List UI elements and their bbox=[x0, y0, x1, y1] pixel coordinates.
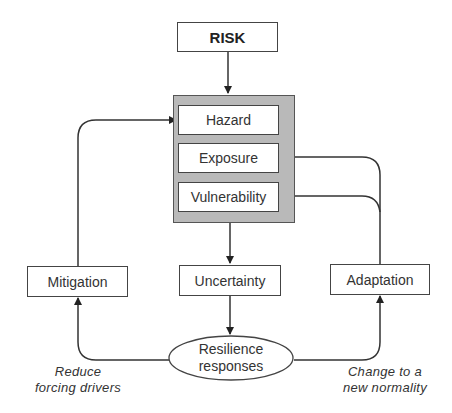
vulnerability-label: Vulnerability bbox=[191, 189, 267, 205]
adaptation-node: Adaptation bbox=[330, 264, 430, 295]
risk-diagram: RISK Hazard Exposure Vulnerability Mitig… bbox=[0, 0, 452, 413]
risk-label: RISK bbox=[210, 29, 246, 46]
exposure-label: Exposure bbox=[199, 150, 258, 166]
note-right-line2: new normality bbox=[335, 380, 435, 396]
adaptation-label: Adaptation bbox=[347, 272, 414, 288]
note-reduce-forcing-drivers: Reduce forcing drivers bbox=[28, 364, 128, 396]
hazard-node: Hazard bbox=[178, 105, 279, 135]
note-right-line1: Change to a bbox=[335, 364, 435, 380]
note-change-to-new-normality: Change to a new normality bbox=[335, 364, 435, 396]
hazard-label: Hazard bbox=[206, 112, 251, 128]
resilience-line2: responses bbox=[199, 358, 264, 375]
exposure-node: Exposure bbox=[178, 143, 279, 173]
mitigation-node: Mitigation bbox=[27, 266, 128, 297]
uncertainty-label: Uncertainty bbox=[195, 273, 266, 289]
risk-node: RISK bbox=[177, 22, 278, 52]
resilience-responses-node: Resilience responses bbox=[169, 336, 293, 380]
note-left-line1: Reduce bbox=[28, 364, 128, 380]
note-left-line2: forcing drivers bbox=[28, 380, 128, 396]
resilience-line1: Resilience bbox=[199, 341, 264, 358]
uncertainty-node: Uncertainty bbox=[179, 265, 281, 296]
mitigation-label: Mitigation bbox=[48, 274, 108, 290]
vulnerability-node: Vulnerability bbox=[178, 182, 279, 212]
